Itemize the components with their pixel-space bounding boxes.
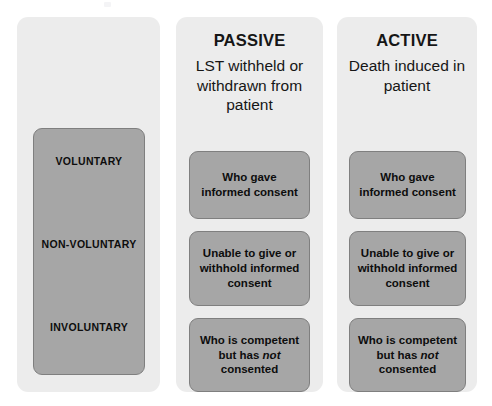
column-subheading-active: Death induced in patient [343, 56, 471, 95]
passive-box-non-voluntary-text: Unable to give or withhold informed cons… [197, 246, 302, 290]
passive-box-involuntary-text-before: Who is competent but has [200, 334, 299, 361]
active-box-voluntary-text: Who gave informed consent [357, 170, 458, 199]
column-heading-active: ACTIVE [337, 31, 477, 50]
active-box-involuntary: Who is competent but has not consented [349, 318, 466, 392]
column-heading-passive: PASSIVE [176, 31, 323, 50]
scan-artifact [104, 2, 111, 7]
active-box-involuntary-text-after: consented [379, 363, 437, 375]
tier-label-voluntary: VOLUNTARY [34, 155, 144, 168]
passive-box-involuntary: Who is competent but has not consented [189, 318, 310, 392]
tier-box: VOLUNTARY NON-VOLUNTARY INVOLUNTARY [33, 128, 145, 375]
active-box-non-voluntary-text: Unable to give or withhold informed cons… [357, 246, 458, 290]
active-box-voluntary: Who gave informed consent [349, 151, 466, 219]
passive-box-involuntary-emphasis: not [263, 349, 281, 361]
tier-label-non-voluntary: NON-VOLUNTARY [34, 238, 144, 251]
panel-active: ACTIVE Death induced in patient Who gave… [337, 17, 477, 392]
euthanasia-classification-diagram: VOLUNTARY NON-VOLUNTARY INVOLUNTARY PASS… [0, 0, 492, 406]
panel-passive: PASSIVE LST withheld or withdrawn from p… [176, 17, 323, 392]
active-box-involuntary-text-before: Who is competent but has [358, 334, 457, 361]
passive-box-involuntary-text: Who is competent but has not consented [197, 333, 302, 377]
passive-box-voluntary-text: Who gave informed consent [197, 170, 302, 199]
active-box-non-voluntary: Unable to give or withhold informed cons… [349, 231, 466, 306]
column-subheading-passive: LST withheld or withdrawn from patient [182, 56, 317, 115]
active-box-involuntary-emphasis: not [421, 349, 439, 361]
passive-box-non-voluntary: Unable to give or withhold informed cons… [189, 231, 310, 306]
tier-label-involuntary: INVOLUNTARY [34, 321, 144, 334]
passive-box-involuntary-text-after: consented [221, 363, 279, 375]
active-box-involuntary-text: Who is competent but has not consented [357, 333, 458, 377]
panel-tiers: VOLUNTARY NON-VOLUNTARY INVOLUNTARY [17, 17, 160, 392]
passive-box-voluntary: Who gave informed consent [189, 151, 310, 219]
